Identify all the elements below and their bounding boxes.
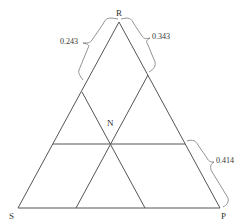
vertex-label-s: S [9, 211, 14, 221]
diagonal-line-right [76, 75, 148, 208]
ternary-diagram: R S P N 0.243 0.343 0.414 [0, 0, 251, 224]
vertex-label-p: P [221, 211, 226, 221]
triangle-outline [18, 22, 220, 208]
value-label-0343: 0.343 [152, 32, 170, 41]
brace-left-upper [79, 18, 118, 80]
value-label-0243: 0.243 [60, 37, 78, 46]
point-label-n: N [107, 118, 114, 128]
value-label-0414: 0.414 [216, 156, 234, 165]
vertex-label-r: R [116, 8, 122, 18]
brace-right-lower [187, 140, 228, 207]
brace-right-upper [121, 18, 155, 72]
diagonal-line-left [82, 92, 145, 208]
